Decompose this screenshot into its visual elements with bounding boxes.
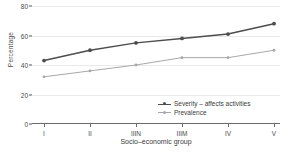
x-tick-label: IIIM — [177, 130, 188, 137]
x-tick-mark — [90, 124, 91, 127]
series-line — [44, 50, 274, 77]
data-point-marker — [181, 56, 184, 59]
x-tick-label: II — [88, 130, 92, 137]
legend-label-prevalence: Prevalence — [174, 109, 207, 118]
line-chart: Percentage 020406080 IIIIIINIIIMIVV Soci… — [0, 0, 292, 154]
data-point-marker — [272, 22, 276, 26]
x-tick-label: IIIN — [131, 130, 141, 137]
data-point-marker — [273, 49, 276, 52]
x-tick-mark — [44, 124, 45, 127]
x-tick-mark — [182, 124, 183, 127]
legend-label-severity: Severity – affects activities — [174, 100, 250, 109]
y-tick-label: 60 — [21, 32, 28, 39]
x-tick-mark — [136, 124, 137, 127]
y-tick-label: 40 — [21, 62, 28, 69]
x-tick-mark — [274, 124, 275, 127]
x-axis-title: Socio–economic group — [32, 138, 280, 145]
legend-marker-severity-icon — [158, 101, 171, 108]
x-tick-mark — [228, 124, 229, 127]
x-tick-label: V — [272, 130, 276, 137]
data-point-marker — [135, 64, 138, 67]
data-point-marker — [43, 75, 46, 78]
y-tick-label: 80 — [21, 3, 28, 10]
data-point-marker — [88, 48, 92, 52]
data-point-marker — [227, 56, 230, 59]
x-tick-label: I — [43, 130, 45, 137]
data-point-marker — [226, 32, 230, 36]
y-axis-title: Percentage — [7, 18, 14, 82]
series-line — [44, 24, 274, 61]
legend-item-prevalence: Prevalence — [158, 109, 250, 118]
data-point-marker — [134, 41, 138, 45]
y-tick-label: 0 — [24, 121, 28, 128]
data-point-marker — [89, 70, 92, 73]
y-tick-label: 20 — [21, 91, 28, 98]
legend-marker-prevalence-icon — [158, 109, 171, 116]
x-tick-label: IV — [225, 130, 231, 137]
x-axis-line — [32, 123, 280, 124]
legend: Severity – affects activities Prevalence — [158, 100, 250, 117]
legend-item-severity: Severity – affects activities — [158, 100, 250, 109]
data-point-marker — [42, 59, 46, 63]
data-point-marker — [180, 37, 184, 41]
